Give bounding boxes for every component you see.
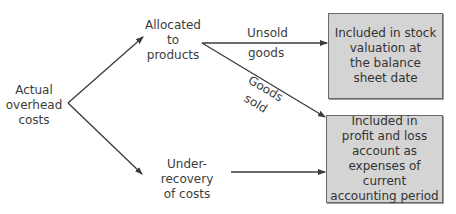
box-profit-and-loss: Included in profit and loss account as e…	[326, 115, 443, 203]
node-actual-overhead-costs: Actual overhead costs	[2, 83, 66, 128]
edge-label-unsold: Unsold	[247, 26, 288, 41]
arrow-to-under-recovery	[68, 103, 142, 174]
node-allocated-to-products: Allocated to products	[138, 18, 208, 63]
arrow-to-allocated	[68, 37, 143, 103]
overhead-costs-diagram: Actual overhead costs Allocated to produ…	[0, 0, 456, 214]
box-stock-valuation: Included in stock valuation at the balan…	[328, 13, 443, 99]
node-under-recovery-of-costs: Under-recovery of costs	[142, 157, 232, 202]
edge-label-goods-unsold: goods	[248, 46, 284, 61]
